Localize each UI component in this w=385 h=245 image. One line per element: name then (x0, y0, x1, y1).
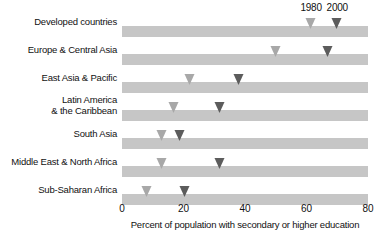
x-tick-label: 0 (119, 203, 125, 215)
category-label: Latin America & the Caribbean (0, 94, 117, 116)
legend-label-1980: 1980 (300, 2, 321, 14)
plot-area: Developed countriesEurope & Central Asia… (0, 16, 385, 202)
x-tick-label: 60 (301, 203, 312, 215)
data-marker-1980 (141, 186, 151, 197)
data-marker-1980 (169, 102, 179, 113)
x-axis-title: Percent of population with secondary or … (122, 219, 368, 231)
x-axis: 020406080 Percent of population with sec… (0, 203, 385, 245)
chart-row: Europe & Central Asia (0, 44, 385, 70)
category-label: East Asia & Pacific (0, 72, 117, 83)
chart-row: Latin America & the Caribbean (0, 100, 385, 126)
category-label: Developed countries (0, 16, 117, 27)
data-marker-1980 (156, 130, 166, 141)
category-label: Middle East & North Africa (0, 156, 117, 167)
x-tick-label: 20 (178, 203, 189, 215)
data-marker-1980 (306, 18, 316, 29)
bar-track (122, 82, 368, 93)
chart-container: 1980 2000 Developed countriesEurope & Ce… (0, 0, 385, 245)
data-marker-1980 (184, 74, 194, 85)
data-marker-2000 (175, 130, 185, 141)
category-label: South Asia (0, 128, 117, 139)
data-marker-2000 (323, 46, 333, 57)
data-marker-2000 (215, 158, 225, 169)
data-marker-2000 (215, 102, 225, 113)
chart-row: South Asia (0, 128, 385, 154)
category-label: Europe & Central Asia (0, 44, 117, 55)
x-tick-label: 80 (362, 203, 373, 215)
x-tick-label: 40 (239, 203, 250, 215)
legend-label-2000: 2000 (327, 2, 348, 14)
chart-row: Middle East & North Africa (0, 156, 385, 182)
chart-row: Developed countries (0, 16, 385, 42)
data-marker-2000 (332, 18, 342, 29)
data-marker-2000 (233, 74, 243, 85)
bar-track (122, 110, 368, 121)
data-marker-1980 (156, 158, 166, 169)
category-label: Sub-Saharan Africa (0, 184, 117, 195)
data-marker-1980 (270, 46, 280, 57)
data-marker-2000 (180, 186, 190, 197)
